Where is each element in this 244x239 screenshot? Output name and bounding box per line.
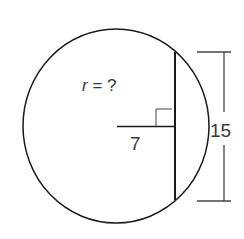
- distance-label: 7: [130, 133, 141, 154]
- right-angle-marker: [156, 109, 172, 126]
- chord-length-label: 15: [210, 120, 231, 141]
- circle: [23, 29, 209, 223]
- circle-chord-diagram: r = ? 7 15: [0, 0, 244, 239]
- radius-equals-question: = ?: [88, 76, 117, 95]
- radius-unknown-label: r = ?: [82, 76, 117, 95]
